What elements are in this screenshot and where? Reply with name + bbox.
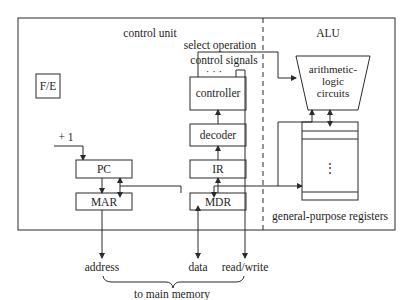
alu-label-line1: arithmetic- bbox=[309, 63, 358, 75]
pc-label: PC bbox=[97, 163, 111, 175]
internal-bus-mdr-registers bbox=[214, 186, 302, 193]
register-ellipsis: ⋮ bbox=[324, 162, 336, 174]
select-operation-label: select operation bbox=[184, 39, 257, 52]
read-write-label: read/write bbox=[222, 261, 269, 273]
mdr-label: MDR bbox=[205, 196, 232, 208]
memory-brace bbox=[103, 276, 244, 288]
alu-label-line3: circuits bbox=[317, 87, 349, 99]
to-main-memory-label: to main memory bbox=[134, 288, 210, 300]
fe-label: F/E bbox=[40, 80, 57, 92]
registers-label: general-purpose registers bbox=[272, 210, 388, 223]
increment-label: + 1 bbox=[58, 131, 73, 143]
alu-label-line2: logic bbox=[322, 75, 344, 87]
general-purpose-registers bbox=[302, 122, 358, 200]
cpu-block-diagram: control unit ALU F/E + 1 PC MAR controll… bbox=[0, 0, 413, 300]
control-signals-label: control signals bbox=[190, 54, 258, 67]
address-label: address bbox=[85, 261, 120, 273]
mar-label: MAR bbox=[91, 196, 118, 208]
controller-label: controller bbox=[196, 87, 241, 99]
ir-label: IR bbox=[212, 163, 224, 175]
control-unit-label: control unit bbox=[123, 27, 177, 39]
alu-label: ALU bbox=[316, 27, 340, 39]
control-signals-ellipsis: · · · bbox=[206, 65, 223, 77]
increment-arrow bbox=[54, 146, 83, 160]
data-label: data bbox=[188, 261, 207, 273]
decoder-label: decoder bbox=[200, 129, 237, 141]
internal-bus-pc-mdr bbox=[120, 186, 181, 193]
